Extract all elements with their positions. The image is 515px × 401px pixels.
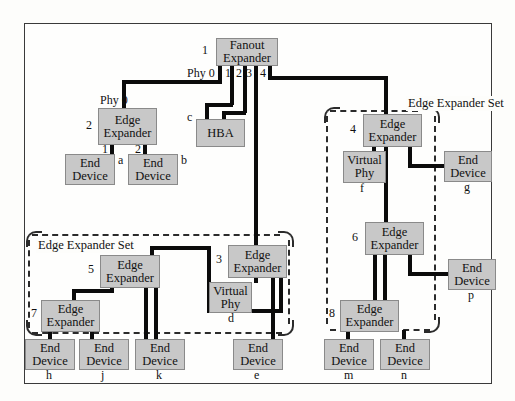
edge-expander-7-index: 7 [31,306,37,321]
wire-ee3-loop-right-v [279,276,283,312]
end-device-h-line2: Device [32,355,67,368]
fanout-phy1-label: 1 [225,66,231,81]
node-end-device-n[interactable]: End Device [380,339,430,370]
wire-ee3-e [271,276,275,340]
edge-expander-3-line1: Edge [245,249,271,262]
wire-ee4-g-h [408,164,446,168]
wire-ee5-k-a [144,286,148,340]
end-device-m-label: m [344,368,353,383]
right-set-dash-top [330,110,418,112]
end-device-h-label: h [46,368,52,383]
end-device-g-label: g [464,180,470,195]
right-set-dash-left [326,116,328,324]
edge-expander-6-line2: Expander [371,239,419,252]
edge-expander-3-line2: Expander [234,262,282,275]
end-device-b-line1: End [143,157,163,170]
end-device-e-line2: Device [240,355,275,368]
left-set-dash-left [28,240,30,328]
edge-expander-8-line2: Expander [346,316,394,329]
edge-expander-7-line2: Expander [47,316,95,329]
virtual-phy-d-line1: Virtual [213,285,248,298]
virtual-phy-d-label: d [228,311,234,326]
wire-fanout-phy4-h [268,76,388,80]
end-device-j-line2: Device [86,355,121,368]
node-end-device-k[interactable]: End Device [135,339,185,370]
node-fanout-expander[interactable]: Fanout Expander [216,38,278,66]
node-edge-expander-4[interactable]: Edge Expander [363,114,422,147]
edge-expander-8-index: 8 [329,306,335,321]
end-device-a-label: a [118,153,123,168]
figure-canvas: Edge Expander Set Edge Expander Set [0,0,515,401]
left-set-title: Edge Expander Set [36,238,136,253]
end-device-j-label: j [101,368,104,383]
wire-ee5-k-b [154,286,158,340]
virtual-phy-f-label: f [360,181,364,196]
right-set-dash-right [434,116,436,320]
end-device-e-label: e [254,368,259,383]
node-end-device-p[interactable]: End Device [448,259,496,290]
end-device-m-line1: End [339,342,359,355]
node-end-device-a[interactable]: End Device [65,154,115,185]
end-device-a-line2: Device [72,170,107,183]
edge-expander-6-line1: Edge [382,226,408,239]
node-virtual-phy-f[interactable]: Virtual Phy [343,151,386,183]
end-device-g-line2: Device [450,167,485,180]
hba-line1: HBA [207,127,233,140]
node-end-device-m[interactable]: End Device [324,339,374,370]
node-end-device-e[interactable]: End Device [233,339,283,370]
end-device-e-line1: End [248,342,268,355]
end-device-b-line2: Device [135,170,170,183]
fanout-expander-index: 1 [202,43,208,58]
wire-ee6-p-h [408,272,450,276]
edge-expander-4-index: 4 [350,122,356,137]
end-device-m-line2: Device [331,355,366,368]
wire-fanout-phy1-h [205,103,233,107]
edge-expander-6-index: 6 [352,230,358,245]
wire-ee6-ee8-b [383,253,387,302]
end-device-n-line2: Device [387,355,422,368]
end-device-p-label: p [468,288,474,303]
end-device-k-line2: Device [142,355,177,368]
fanout-expander-line2: Expander [223,52,271,65]
ee2-phy1-label: 1 [102,142,108,157]
node-edge-expander-7[interactable]: Edge Expander [41,300,100,332]
edge-expander-3-index: 3 [216,252,222,267]
end-device-h-line1: End [40,342,60,355]
virtual-phy-f-line2: Phy [355,167,374,180]
end-device-k-label: k [156,368,162,383]
fanout-phy3-label: 3 [246,66,252,81]
end-device-p-line1: End [462,262,482,275]
edge-expander-5-line2: Expander [106,272,154,285]
fanout-phy0-label: Phy 0 [187,66,215,81]
node-end-device-g[interactable]: End Device [444,151,492,182]
node-end-device-j[interactable]: End Device [79,339,129,370]
end-device-n-label: n [401,368,407,383]
fanout-phy4-label: 4 [260,66,266,81]
node-edge-expander-8[interactable]: Edge Expander [340,300,399,332]
node-end-device-b[interactable]: End Device [128,154,178,185]
edge-expander-2-line2: Expander [104,127,152,140]
node-virtual-phy-d[interactable]: Virtual Phy [209,282,252,313]
wire-fanout-phy3-v [254,63,258,247]
wire-ee6-ee8-a [373,253,377,302]
node-hba[interactable]: HBA [196,119,245,147]
end-device-b-label: b [181,153,187,168]
right-set-title: Edge Expander Set [406,96,506,111]
edge-expander-4-line2: Expander [369,131,417,144]
node-edge-expander-2[interactable]: Edge Expander [98,108,157,145]
page-top-margin [0,0,515,12]
wire-fanout-phy2-h [222,111,246,115]
edge-expander-5-index: 5 [88,262,94,277]
ee2-phy0-label: Phy 0 [100,93,128,108]
node-end-device-h[interactable]: End Device [25,339,75,370]
edge-expander-4-line1: Edge [380,118,406,131]
edge-expander-2-line1: Edge [115,114,141,127]
virtual-phy-d-line2: Phy [221,298,240,311]
edge-expander-2-index: 2 [86,118,92,133]
left-set-dash-right [288,240,290,324]
node-edge-expander-5[interactable]: Edge Expander [100,255,160,288]
end-device-p-line2: Device [454,275,489,288]
node-edge-expander-3[interactable]: Edge Expander [228,245,287,278]
node-edge-expander-6[interactable]: Edge Expander [365,222,424,255]
ee2-phy2-label: 2 [135,142,141,157]
